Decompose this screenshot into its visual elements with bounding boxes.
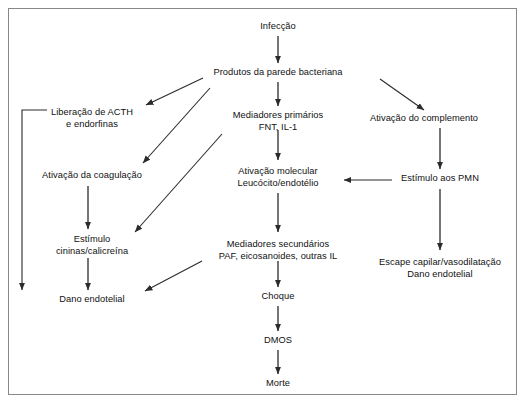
node-mediadores-sec-line1: Mediadores secundários [219,239,338,251]
node-produtos-line1: Produtos da parede bacteriana [213,67,342,79]
connector-layer [0,0,529,413]
node-infeccao: Infecção [260,21,296,33]
edge-produtos-to-acth [146,78,203,105]
node-escape-line1: Escape capilar/vasodilatação [379,257,501,269]
node-escape-capilar-vasodilatacao: Escape capilar/vasodilatação Dano endote… [379,257,501,280]
node-dmos: DMOS [264,335,292,347]
node-ativacao-do-complemento: Ativação do complemento [370,113,478,125]
node-coagulacao-line1: Ativação da coagulação [42,170,142,182]
node-complemento-line1: Ativação do complemento [370,113,478,125]
node-acth-line2: e endorfinas [51,119,133,131]
node-ativacao-mol-line2: Leucócito/endotélio [237,178,318,190]
node-acth-line1: Liberação de ACTH [51,107,133,119]
node-pmn-line1: Estímulo aos PMN [401,173,479,185]
edge-produtos-to-complemento [380,79,424,110]
node-estimulo-cininas-calicreina: Estímulo cininas/calicreína [56,234,128,257]
edge-produtos-to-coagulacao [143,88,210,163]
node-morte: Morte [266,378,290,390]
node-mediadores-primarios: Mediadores primários FNT, IL-1 [233,110,323,133]
node-dano-endotelial: Dano endotelial [59,294,124,306]
node-cininas-line2: cininas/calicreína [56,246,128,258]
node-cininas-line1: Estímulo [56,234,128,246]
node-estimulo-aos-pmn: Estímulo aos PMN [401,173,479,185]
edge-produtos-to-cininas [135,134,222,232]
node-morte-line1: Morte [266,378,290,390]
flowchart-page: Infecção Produtos da parede bacteriana L… [0,0,529,413]
node-mediadores-sec-line2: PAF, eicosanoides, outras IL [219,251,338,263]
edge-acth-to-bottom [22,110,47,290]
node-infeccao-line1: Infecção [260,21,296,33]
node-mediadores-prim-line1: Mediadores primários [233,110,323,122]
node-choque-line1: Choque [262,291,295,303]
edge-mediadores-sec-to-dano [145,261,202,291]
node-dano-endotelial-line1: Dano endotelial [59,294,124,306]
node-liberacao-de-acth: Liberação de ACTH e endorfinas [51,107,133,130]
node-ativacao-mol-line1: Ativação molecular [237,166,318,178]
node-mediadores-secundarios: Mediadores secundários PAF, eicosanoides… [219,239,338,262]
node-ativacao-molecular: Ativação molecular Leucócito/endotélio [237,166,318,189]
node-choque: Choque [262,291,295,303]
node-dmos-line1: DMOS [264,335,292,347]
node-escape-line2: Dano endotelial [379,269,501,281]
node-mediadores-prim-line2: FNT, IL-1 [233,122,323,134]
node-ativacao-da-coagulacao: Ativação da coagulação [42,170,142,182]
node-produtos-da-parede-bacteriana: Produtos da parede bacteriana [213,67,342,79]
